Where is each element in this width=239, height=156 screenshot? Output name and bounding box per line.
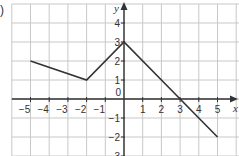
y-axis-arrow-icon bbox=[121, 2, 128, 10]
grid-lines bbox=[12, 4, 239, 156]
y-tick-label: −1 bbox=[109, 113, 121, 124]
x-tick-label: 5 bbox=[215, 104, 221, 115]
x-axis-label: x bbox=[232, 102, 238, 114]
x-tick-label: −2 bbox=[75, 104, 87, 115]
y-tick-label: −2 bbox=[109, 132, 121, 143]
y-tick-label: 2 bbox=[114, 56, 120, 67]
x-tick-label: −3 bbox=[56, 104, 68, 115]
x-tick-label: −5 bbox=[19, 104, 31, 115]
axes bbox=[12, 2, 238, 156]
x-tick-label: −4 bbox=[37, 104, 49, 115]
x-tick-label: 1 bbox=[140, 104, 146, 115]
y-tick-label: 1 bbox=[114, 75, 120, 86]
y-tick-label: 4 bbox=[114, 18, 120, 29]
y-tick-label: −3 bbox=[109, 151, 121, 156]
x-tick-label: −1 bbox=[94, 104, 106, 115]
x-tick-label: 4 bbox=[196, 104, 202, 115]
tick-labels: xy−5−4−3−2−1123454321−1−2−30 bbox=[19, 2, 238, 156]
y-axis-label: y bbox=[113, 2, 119, 14]
line-chart: xy−5−4−3−2−1123454321−1−2−30 bbox=[0, 0, 239, 156]
x-tick-label: 3 bbox=[177, 104, 183, 115]
x-tick-label: 2 bbox=[159, 104, 165, 115]
origin-label: 0 bbox=[115, 87, 121, 98]
